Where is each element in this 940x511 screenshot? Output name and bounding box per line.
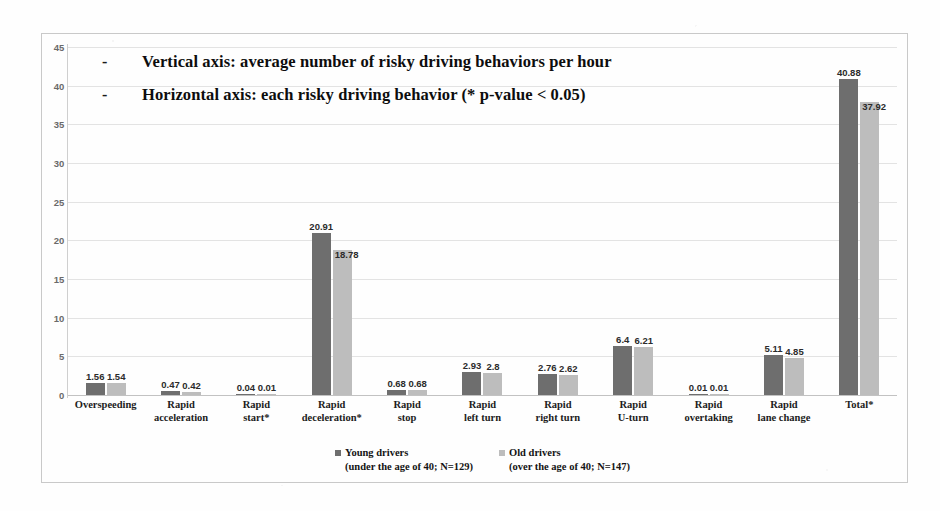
bar-value-label: 0.42: [182, 380, 201, 391]
bar-old-drivers[interactable]: 2.8: [483, 373, 502, 395]
y-axis-tick-labels: 051015202530354045: [42, 47, 66, 395]
x-category-label-line: start*: [219, 411, 294, 424]
bar-young-drivers[interactable]: 0.47: [161, 391, 180, 395]
bar-young-drivers[interactable]: 2.76: [538, 374, 557, 395]
legend-item-old-drivers[interactable]: Old drivers(over the age of 40; N=147): [499, 446, 630, 473]
bar-young-drivers[interactable]: 2.93: [462, 372, 481, 395]
x-category-label-line: acceleration: [143, 411, 218, 424]
legend-label: Old drivers(over the age of 40; N=147): [509, 446, 630, 473]
bar-young-drivers[interactable]: 20.91: [312, 233, 331, 395]
x-category-label: Total*: [822, 398, 897, 411]
annotation-row: -Vertical axis: average number of risky …: [102, 52, 802, 72]
bar-old-drivers[interactable]: 18.78: [333, 250, 352, 395]
annotation-bullet: -: [102, 86, 142, 104]
legend-swatch-icon: [499, 450, 505, 456]
bar-value-label: 20.91: [309, 221, 333, 232]
annotation-text: Vertical axis: average number of risky d…: [142, 52, 612, 72]
bar-old-drivers[interactable]: 4.85: [785, 358, 804, 396]
annotation-block: -Vertical axis: average number of risky …: [102, 52, 802, 118]
bar-young-drivers[interactable]: 6.4: [613, 346, 632, 395]
bar-value-label: 4.85: [785, 346, 804, 357]
x-category-label: Rapidstart*: [219, 398, 294, 425]
bar-young-drivers[interactable]: 0.04: [236, 394, 255, 396]
bar-value-label: 0.01: [689, 382, 708, 393]
bar-old-drivers[interactable]: 37.92: [860, 102, 879, 395]
gridline-0: [68, 395, 897, 396]
legend-item-young-drivers[interactable]: Young drivers(under the age of 40; N=129…: [335, 446, 473, 473]
x-category-label-line: U-turn: [596, 411, 671, 424]
bar-value-label: 2.76: [538, 362, 557, 373]
bar-young-drivers[interactable]: 0.01: [689, 394, 708, 396]
bar-old-drivers[interactable]: 0.01: [257, 394, 276, 396]
legend-label-detail: (under the age of 40; N=129): [345, 460, 473, 474]
x-category-label-line: Rapid: [294, 398, 369, 411]
x-category-label-line: Rapid: [219, 398, 294, 411]
x-category-label-line: Rapid: [143, 398, 218, 411]
x-category-label-line: lane change: [746, 411, 821, 424]
chart-legend: Young drivers(under the age of 40; N=129…: [68, 446, 897, 473]
bar-value-label: 0.01: [710, 382, 729, 393]
bar-value-label: 6.4: [616, 334, 629, 345]
x-category-label: Rapiddeceleration*: [294, 398, 369, 425]
x-category-label-line: Rapid: [369, 398, 444, 411]
bar-value-label: 0.47: [161, 379, 180, 390]
legend-label: Young drivers(under the age of 40; N=129…: [345, 446, 473, 473]
bar-young-drivers[interactable]: 40.88: [839, 79, 858, 395]
x-category-label: Rapidstop: [369, 398, 444, 425]
bar-value-label: 2.62: [559, 363, 578, 374]
bar-value-label: 2.8: [486, 361, 499, 372]
x-category-label-line: deceleration*: [294, 411, 369, 424]
x-category-label: Rapidright turn: [520, 398, 595, 425]
bar-value-label: 37.92: [862, 101, 886, 112]
bar-value-label: 40.88: [837, 67, 861, 78]
y-tick-label-15: 15: [54, 274, 64, 285]
y-tick-label-5: 5: [59, 351, 64, 362]
y-tick-label-10: 10: [54, 312, 64, 323]
y-tick-label-20: 20: [54, 235, 64, 246]
x-axis-category-labels: OverspeedingRapidaccelerationRapidstart*…: [68, 398, 897, 442]
bar-value-label: 0.01: [258, 382, 277, 393]
x-category-label: Overspeeding: [68, 398, 143, 411]
bar-value-label: 1.54: [107, 371, 126, 382]
bar-old-drivers[interactable]: 0.68: [408, 390, 427, 395]
x-category-label-line: Rapid: [445, 398, 520, 411]
bar-group: 40.8837.92: [822, 47, 897, 395]
annotation-row: -Horizontal axis: each risky driving beh…: [102, 85, 802, 105]
bar-old-drivers[interactable]: 0.01: [710, 394, 729, 396]
bar-young-drivers[interactable]: 1.56: [86, 383, 105, 395]
scanned-page-background: 051015202530354045 1.561.540.470.420.040…: [0, 0, 940, 511]
bar-old-drivers[interactable]: 0.42: [182, 392, 201, 395]
legend-label-name: Young drivers: [345, 447, 408, 458]
bar-old-drivers[interactable]: 6.21: [634, 347, 653, 395]
bar-value-label: 5.11: [764, 343, 782, 354]
chart-figure: 051015202530354045 1.561.540.470.420.040…: [41, 33, 908, 483]
x-category-label-line: Rapid: [520, 398, 595, 411]
bar-old-drivers[interactable]: 1.54: [107, 383, 126, 395]
x-category-label: Rapidacceleration: [143, 398, 218, 425]
y-tick-label-40: 40: [54, 80, 64, 91]
bar-value-label: 0.04: [237, 382, 256, 393]
legend-label-name: Old drivers: [509, 447, 561, 458]
x-category-label-line: Rapid: [671, 398, 746, 411]
bar-value-label: 0.68: [387, 378, 406, 389]
x-category-label: RapidU-turn: [596, 398, 671, 425]
x-category-label-line: Total*: [822, 398, 897, 411]
bar-value-label: 2.93: [463, 360, 482, 371]
bar-young-drivers[interactable]: 0.68: [387, 390, 406, 395]
bar-value-label: 1.56: [86, 371, 105, 382]
x-category-label-line: Rapid: [746, 398, 821, 411]
bar-value-label: 18.78: [335, 249, 359, 260]
x-category-label: Rapidlane change: [746, 398, 821, 425]
annotation-bullet: -: [102, 53, 142, 71]
bar-value-label: 6.21: [634, 335, 653, 346]
y-tick-label-25: 25: [54, 196, 64, 207]
bar-old-drivers[interactable]: 2.62: [559, 375, 578, 395]
x-category-label-line: overtaking: [671, 411, 746, 424]
y-tick-label-45: 45: [54, 42, 64, 53]
bar-young-drivers[interactable]: 5.11: [764, 355, 783, 395]
y-tick-label-0: 0: [59, 390, 64, 401]
x-category-label-line: Rapid: [596, 398, 671, 411]
x-category-label-line: stop: [369, 411, 444, 424]
legend-swatch-icon: [335, 450, 341, 456]
x-category-label: Rapidleft turn: [445, 398, 520, 425]
